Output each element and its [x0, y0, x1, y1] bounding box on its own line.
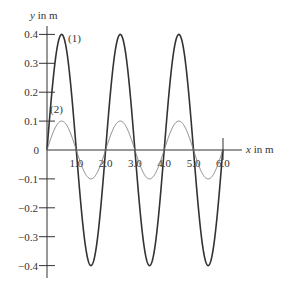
- series1-label: (1): [68, 32, 81, 45]
- y-tick-label: 0.3: [24, 57, 38, 69]
- y-tick-label: 0.4: [24, 28, 38, 40]
- y-tick-label: 0.2: [24, 86, 38, 98]
- y-tick-label: −0.4: [18, 260, 38, 272]
- y-tick-label: −0.1: [18, 173, 38, 185]
- y-tick-label: −0.3: [18, 231, 38, 243]
- y-axis-label: y in m: [29, 9, 58, 21]
- series2-label: (2): [50, 103, 63, 116]
- x-axis-label: x in m: [245, 143, 274, 155]
- y-tick-label: 0: [34, 144, 40, 156]
- wave-chart: 0.40.30.20.10−0.1−0.2−0.3−0.4 1.02.03.04…: [0, 0, 289, 288]
- y-tick-label: −0.2: [18, 202, 38, 214]
- y-tick-label: 0.1: [24, 115, 38, 127]
- x-ticks: 1.02.03.04.05.06.0: [69, 157, 230, 169]
